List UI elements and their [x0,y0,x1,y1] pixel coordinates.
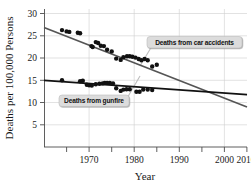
x-tick-label: 1970 [80,155,99,165]
y-axis-title: Deaths per 100,000 Persons [3,17,15,140]
gunfire-callout: Deaths from gunfire [59,95,129,107]
x-axis-ticks [67,147,247,152]
x-tick-label: 2010 [237,155,252,165]
y-tick-label: 30 [28,9,38,19]
y-tick-label: 15 [28,76,38,86]
y-tick-label: 25 [28,31,38,41]
y-tick-label: 10 [28,98,38,108]
gunfire-callout-label: Deaths from gunfire [64,97,124,105]
y-tick-label: 5 [32,120,37,130]
y-tick-label: 20 [28,53,38,63]
y-axis-ticks [40,14,45,125]
x-tick-label: 2000 [215,155,234,165]
x-axis-title: Year [135,170,156,182]
chart-figure: 1970 1980 1990 2000 2010 5 10 15 20 25 3… [0,0,251,184]
x-tick-label: 1980 [125,155,144,165]
chart-canvas: 1970 1980 1990 2000 2010 5 10 15 20 25 3… [0,0,251,184]
car-accidents-callout: Deaths from car accidents [147,37,242,49]
car-accidents-callout-label: Deaths from car accidents [155,39,234,46]
x-tick-label: 1990 [170,155,189,165]
y-tick-labels: 5 10 15 20 25 30 [28,9,38,130]
x-tick-labels: 1970 1980 1990 2000 2010 [80,155,251,165]
plot-area-background [44,9,247,147]
